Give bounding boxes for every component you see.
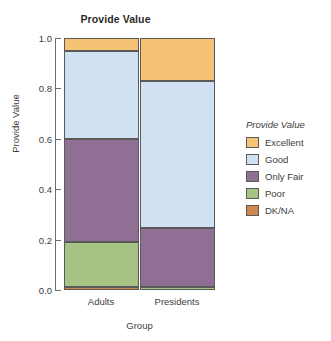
bar-adults [64, 38, 139, 290]
y-tick-label: 0.8 [18, 83, 52, 94]
y-axis-tick [56, 139, 61, 140]
legend-label: Only Fair [265, 171, 304, 182]
legend: Provide Value ExcellentGoodOnly FairPoor… [246, 119, 305, 219]
y-axis-tick [56, 88, 61, 89]
legend-items: ExcellentGoodOnly FairPoorDK/NA [246, 134, 305, 219]
y-axis-tick [56, 189, 61, 190]
y-axis-title: Provide Value [10, 64, 21, 184]
bar-segment [140, 38, 215, 81]
plot-area [64, 38, 215, 290]
chart-title: Provide Value [0, 13, 231, 25]
y-axis-tick [56, 290, 61, 291]
legend-title: Provide Value [246, 119, 305, 130]
legend-swatch-icon [246, 154, 259, 165]
y-axis-line [55, 38, 56, 290]
legend-label: Excellent [265, 137, 304, 148]
y-tick-label: 0.2 [18, 234, 52, 245]
bar-segment [64, 38, 139, 51]
legend-item[interactable]: Excellent [246, 134, 305, 151]
bar-segment [64, 287, 139, 290]
legend-item[interactable]: Good [246, 151, 305, 168]
bar-segment [140, 228, 215, 287]
y-tick-label: 0.6 [18, 133, 52, 144]
bar-segment [64, 51, 139, 139]
legend-swatch-icon [246, 188, 259, 199]
bar-segment [64, 242, 139, 287]
legend-item[interactable]: DK/NA [246, 202, 305, 219]
y-tick-label: 0.4 [18, 184, 52, 195]
legend-swatch-icon [246, 205, 259, 216]
y-tick-label: 1.0 [18, 33, 52, 44]
y-axis-tick [56, 240, 61, 241]
chart-container: Provide Value Provide Value 1.00.80.60.4… [0, 0, 331, 341]
x-axis-title: Group [64, 320, 215, 331]
y-axis-tick [56, 38, 61, 39]
bar-segment [140, 81, 215, 228]
legend-swatch-icon [246, 171, 259, 182]
legend-label: Good [265, 154, 288, 165]
y-tick-label: 0.0 [18, 285, 52, 296]
bar-segment [140, 287, 215, 290]
bar-presidents [140, 38, 215, 290]
x-tick-label-presidents: Presidents [132, 296, 222, 307]
bar-segment [64, 139, 139, 242]
legend-label: DK/NA [265, 205, 294, 216]
legend-label: Poor [265, 188, 285, 199]
legend-swatch-icon [246, 137, 259, 148]
legend-item[interactable]: Only Fair [246, 168, 305, 185]
legend-item[interactable]: Poor [246, 185, 305, 202]
